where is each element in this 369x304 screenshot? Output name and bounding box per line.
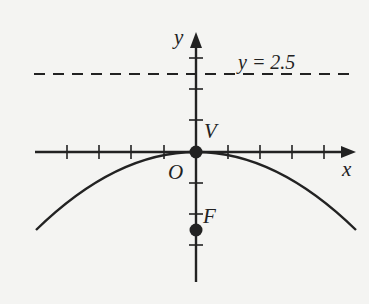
parabola-diagram: y = 2.5 x y V O F — [0, 0, 369, 304]
y-axis-arrow-icon — [190, 32, 202, 48]
x-axis-label: x — [341, 157, 352, 181]
origin-label: O — [168, 160, 183, 184]
focus-label: F — [202, 204, 216, 228]
vertex-label: V — [204, 119, 219, 143]
directrix-label: y = 2.5 — [236, 51, 295, 74]
y-axis-label: y — [172, 25, 184, 49]
focus-point — [190, 224, 203, 237]
vertex-point — [190, 146, 203, 159]
diagram-svg: y = 2.5 x y V O F — [0, 0, 369, 304]
